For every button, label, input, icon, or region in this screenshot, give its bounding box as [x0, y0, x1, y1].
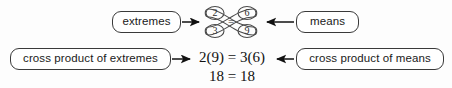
proportion-numerator-right: 6: [241, 7, 253, 19]
proportion-equals-sign: =: [221, 15, 241, 27]
callout-cross-product-of-means: cross product of means: [296, 48, 444, 70]
callout-cross-product-of-extremes: cross product of extremes: [10, 48, 171, 70]
proportion-denominator-right: 9: [241, 25, 253, 37]
equation-result: 18 = 18: [186, 69, 278, 84]
equation-cross-products: 2(9) = 3(6): [186, 50, 278, 65]
proportion-cross-product-diagram: 2 6 3 9 = extremes means cross product o…: [0, 0, 452, 88]
callout-means: means: [296, 11, 359, 33]
proportion-numerator-left: 2: [209, 7, 221, 19]
callout-extremes: extremes: [112, 11, 181, 33]
proportion-denominator-left: 3: [209, 25, 221, 37]
